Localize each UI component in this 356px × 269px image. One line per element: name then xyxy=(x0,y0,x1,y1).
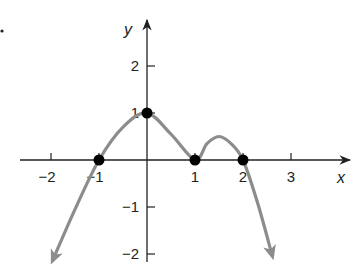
y-tick-label: 2 xyxy=(131,57,139,74)
y-tick-label: −1 xyxy=(122,198,139,215)
x-ticks: −2−1123 xyxy=(38,153,295,185)
marked-point xyxy=(238,155,249,166)
marked-points xyxy=(94,108,249,166)
x-axis-label: x xyxy=(336,169,346,186)
y-tick-label: −2 xyxy=(122,245,139,262)
x-tick-label: −2 xyxy=(38,168,55,185)
marked-point xyxy=(190,155,201,166)
x-tick-label: 1 xyxy=(191,168,199,185)
marked-point xyxy=(142,108,153,119)
bullet-dot xyxy=(0,29,3,32)
x-tick-label: 3 xyxy=(287,168,295,185)
function-graph: −2−1123 21−1−2 x y xyxy=(0,0,356,269)
marked-point xyxy=(94,155,105,166)
y-axis-label: y xyxy=(123,21,133,38)
axes xyxy=(20,20,350,262)
function-curve xyxy=(53,113,271,259)
